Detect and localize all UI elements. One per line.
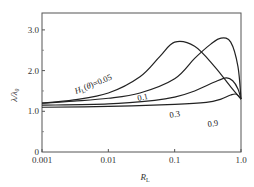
plot-frame — [42, 13, 241, 152]
y-tick-label: 1.0 — [28, 106, 40, 116]
x-axis-label: RL — [139, 172, 150, 183]
x-tick-label: 0.01 — [100, 155, 116, 165]
curve-label: 0.3 — [169, 108, 181, 120]
y-tick-label: 3.0 — [28, 25, 40, 35]
curve-labels: HL(θ)=0.050.10.30.9 — [72, 72, 219, 129]
line-chart: 01.02.03.0 0.0010.010.11.0 HL(θ)=0.050.1… — [0, 0, 254, 187]
x-tick-label: 0.1 — [169, 155, 180, 165]
x-tick-label: 1.0 — [235, 155, 247, 165]
y-axis-label: λ/λ₀ — [9, 88, 19, 102]
svg-text:RL: RL — [139, 172, 150, 183]
x-tick-label: 0.001 — [32, 155, 52, 165]
curve-label: 0.9 — [207, 118, 219, 129]
x-axis-ticks: 0.0010.010.11.0 — [32, 149, 247, 165]
y-tick-label: 2.0 — [28, 66, 40, 76]
